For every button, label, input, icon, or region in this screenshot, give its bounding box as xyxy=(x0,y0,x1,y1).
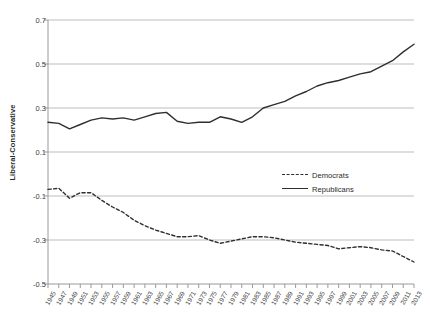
legend-label: Republicans xyxy=(312,185,354,194)
legend-swatch-solid-line-icon xyxy=(282,188,308,190)
legend-label: Democrats xyxy=(312,171,349,180)
chart-legend: DemocratsRepublicans xyxy=(282,168,412,196)
chart-container: Liberal-Conservative 0.70.50.30.1-0.1-0.… xyxy=(0,0,430,336)
legend-item-republicans: Republicans xyxy=(282,182,412,196)
x-tick-label: 1945 xyxy=(44,290,57,306)
legend-item-democrats: Democrats xyxy=(282,168,412,182)
legend-swatch-dashed-line-icon xyxy=(282,174,308,176)
